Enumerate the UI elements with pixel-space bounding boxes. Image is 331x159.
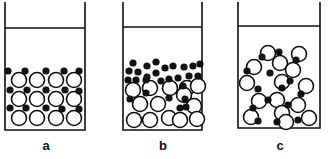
large-open-particle (190, 112, 205, 127)
panel-label-c: c (270, 138, 290, 153)
large-open-particle (143, 113, 158, 128)
large-open-particle (67, 111, 82, 126)
small-filled-particle (169, 62, 176, 69)
small-filled-particle (157, 77, 164, 84)
small-filled-particle (284, 101, 291, 108)
small-filled-particle (180, 63, 187, 70)
large-open-particle (30, 73, 45, 88)
small-filled-particle (42, 86, 49, 93)
small-filled-particle (60, 67, 67, 74)
large-open-particle (30, 111, 45, 126)
small-filled-particle (6, 86, 13, 93)
large-open-particle (133, 97, 148, 112)
small-filled-particle (143, 62, 150, 69)
large-open-particle (302, 111, 317, 126)
small-filled-particle (75, 105, 82, 112)
small-filled-particle (258, 53, 265, 60)
small-filled-particle (266, 69, 273, 76)
small-filled-particle (132, 76, 139, 83)
panel-label-b: b (153, 138, 173, 153)
small-filled-particle (165, 75, 172, 82)
small-filled-particle (75, 87, 82, 94)
small-filled-particle (243, 67, 250, 74)
panel-label-a: a (36, 138, 56, 153)
small-filled-particle (273, 118, 280, 125)
small-filled-particle (142, 76, 149, 83)
large-open-particle (12, 73, 27, 88)
large-open-particle (279, 115, 294, 130)
small-filled-particle (176, 104, 183, 111)
small-filled-particle (174, 74, 181, 81)
large-open-particle (126, 83, 141, 98)
small-filled-particle (194, 72, 201, 79)
small-filled-particle (264, 96, 271, 103)
small-filled-particle (42, 104, 49, 111)
small-filled-particle (129, 59, 136, 66)
large-open-particle (286, 63, 301, 78)
large-open-particle (49, 92, 64, 107)
small-filled-particle (21, 67, 28, 74)
small-filled-particle (294, 116, 301, 123)
small-filled-particle (286, 77, 293, 84)
small-filled-particle (58, 105, 65, 112)
small-filled-particle (142, 89, 149, 96)
small-filled-particle (275, 48, 282, 55)
large-open-particle (240, 76, 255, 91)
small-filled-particle (179, 82, 186, 89)
large-open-particle (30, 92, 45, 107)
small-filled-particle (161, 64, 168, 71)
small-filled-particle (61, 86, 68, 93)
small-filled-particle (182, 103, 189, 110)
small-filled-particle (189, 62, 196, 69)
large-open-particle (49, 73, 64, 88)
small-filled-particle (254, 117, 261, 124)
small-filled-particle (6, 104, 13, 111)
small-filled-particle (185, 72, 192, 79)
small-filled-particle (297, 90, 304, 97)
large-open-particle (67, 73, 82, 88)
large-open-particle (173, 113, 188, 128)
small-filled-particle (124, 76, 131, 83)
small-filled-particle (75, 67, 82, 74)
large-open-particle (191, 79, 206, 94)
small-filled-particle (152, 58, 159, 65)
large-open-particle (12, 92, 27, 107)
small-filled-particle (165, 94, 172, 101)
large-open-particle (12, 111, 27, 126)
small-filled-particle (42, 67, 49, 74)
small-filled-particle (196, 60, 203, 67)
small-filled-particle (4, 67, 11, 74)
small-filled-particle (23, 86, 30, 93)
small-filled-particle (249, 104, 256, 111)
small-filled-particle (134, 68, 141, 75)
small-filled-particle (22, 104, 29, 111)
large-open-particle (291, 98, 306, 113)
small-filled-particle (278, 84, 285, 91)
small-filled-particle (126, 95, 133, 102)
small-filled-particle (292, 56, 299, 63)
small-filled-particle (152, 69, 159, 76)
large-open-particle (163, 81, 178, 96)
small-filled-particle (181, 95, 188, 102)
small-filled-particle (125, 67, 132, 74)
small-filled-particle (254, 85, 261, 92)
large-open-particle (151, 97, 166, 112)
large-open-particle (49, 111, 64, 126)
large-open-particle (127, 113, 142, 128)
particle-beakers-diagram (0, 0, 331, 159)
